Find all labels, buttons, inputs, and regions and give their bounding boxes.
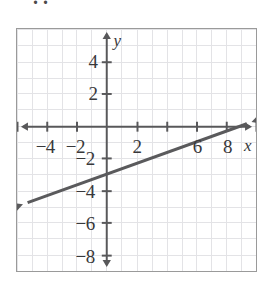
- x-tick-label: 6: [193, 137, 203, 156]
- y-tick-label: 2: [89, 84, 99, 103]
- y-axis-label: y: [114, 31, 122, 50]
- plotted-line-arrow-start: [17, 203, 23, 212]
- partial-top-glyph-text: ..: [33, 0, 53, 7]
- x-tick-label: 2: [133, 137, 143, 156]
- x-tick-label: 8: [223, 137, 233, 156]
- x-tick-label: −4: [36, 137, 55, 156]
- y-tick-label: −8: [76, 247, 95, 266]
- coordinate-plane: −4−226842−2−4−6−8xy: [16, 28, 257, 272]
- partial-top-glyph: ..: [33, 0, 69, 9]
- y-tick-label: −2: [76, 149, 95, 168]
- plotted-line-arrow-end: [252, 115, 256, 124]
- chart-stage: .. −4−226842−2−4−6−8xy: [0, 0, 274, 289]
- y-tick-label: −4: [76, 182, 95, 201]
- x-axis-label: x: [244, 136, 252, 155]
- y-tick-label: 4: [89, 52, 99, 71]
- y-tick-label: −6: [76, 214, 95, 233]
